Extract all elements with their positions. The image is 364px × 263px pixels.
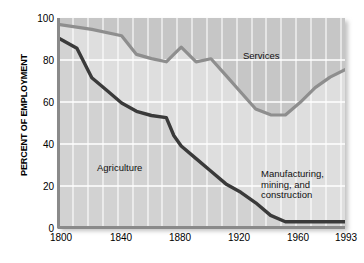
x-tick-1800: 1800 bbox=[50, 232, 72, 243]
annotation-services: Services bbox=[243, 51, 279, 62]
annotation-manufacturing: Manufacturing, mining, and construction bbox=[261, 169, 339, 201]
plot-area bbox=[0, 0, 364, 263]
x-tick-1920: 1920 bbox=[228, 232, 250, 243]
employment-share-chart: PERCENT OF EMPLOYMENT 100 80 60 40 20 0 bbox=[0, 0, 364, 263]
x-tick-1880: 1880 bbox=[169, 232, 191, 243]
x-tick-1960: 1960 bbox=[287, 232, 309, 243]
x-tick-1840: 1840 bbox=[110, 232, 132, 243]
annotation-agriculture: Agriculture bbox=[97, 163, 142, 174]
x-tick-1993: 1993 bbox=[335, 232, 357, 243]
